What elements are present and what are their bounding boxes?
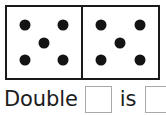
domino-tile <box>5 5 160 80</box>
pip-bottom-left <box>19 55 30 66</box>
pip-bottom-right <box>57 55 68 66</box>
pip-center <box>115 37 126 48</box>
domino-half-left <box>7 7 83 78</box>
pip-top-left <box>19 19 30 30</box>
label-double: Double <box>4 89 78 110</box>
worksheet-canvas: Double is <box>0 0 166 115</box>
pip-bottom-left <box>95 55 106 66</box>
pip-top-right <box>57 19 68 30</box>
sentence-row: Double is <box>4 84 166 115</box>
pip-top-right <box>134 19 145 30</box>
domino-half-right <box>83 7 159 78</box>
answer-box-first[interactable] <box>85 86 112 113</box>
pip-center <box>38 37 49 48</box>
pip-bottom-right <box>134 55 145 66</box>
answer-box-second[interactable] <box>145 86 166 113</box>
pip-top-left <box>95 19 106 30</box>
label-is: is <box>120 89 137 110</box>
